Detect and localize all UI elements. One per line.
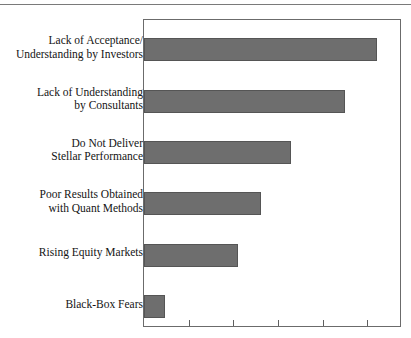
bar-row <box>144 90 402 113</box>
x-axis-tick <box>278 320 279 326</box>
bar-row <box>144 192 402 215</box>
category-label: Poor Results Obtainedwith Quant Methods <box>3 188 143 214</box>
category-label-line: Understanding by Investors <box>3 48 143 61</box>
category-label-line: Do Not Deliver <box>3 137 143 150</box>
bar-row <box>144 244 402 267</box>
title-underline-rule <box>0 4 411 5</box>
category-label-line: Rising Equity Markets <box>3 246 143 259</box>
bar-row <box>144 38 402 61</box>
category-label: Lack of Understandingby Consultants <box>3 86 143 112</box>
category-label-line: Lack of Acceptance/ <box>3 34 143 47</box>
category-label-line: by Consultants <box>3 99 143 112</box>
category-label: Rising Equity Markets <box>3 246 143 259</box>
bar <box>144 295 165 318</box>
category-label-line: Lack of Understanding <box>3 86 143 99</box>
category-label: Lack of Acceptance/Understanding by Inve… <box>3 34 143 60</box>
x-axis-tick <box>323 320 324 326</box>
bar-row <box>144 295 402 318</box>
x-axis-tick <box>233 320 234 326</box>
category-label-line: Black-Box Fears <box>3 298 143 311</box>
x-axis-tick <box>189 320 190 326</box>
category-label-line: Poor Results Obtained <box>3 188 143 201</box>
bar-chart-figure: Lack of Acceptance/Understanding by Inve… <box>0 0 411 338</box>
bar-row <box>144 141 402 164</box>
bar <box>144 192 261 215</box>
chart-title <box>0 0 411 1</box>
x-axis-tick <box>367 320 368 326</box>
bar <box>144 244 238 267</box>
category-label: Do Not DeliverStellar Performance <box>3 137 143 163</box>
plot-area <box>143 19 401 327</box>
bar <box>144 90 345 113</box>
bar <box>144 141 291 164</box>
category-label-line: Stellar Performance <box>3 150 143 163</box>
bar <box>144 38 377 61</box>
category-label-line: with Quant Methods <box>3 202 143 215</box>
category-label: Black-Box Fears <box>3 298 143 311</box>
